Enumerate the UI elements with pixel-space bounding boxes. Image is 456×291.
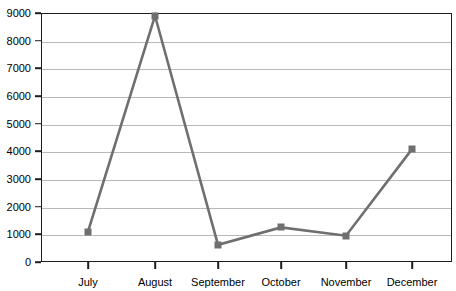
series-line	[0, 0, 456, 291]
data-point-marker	[152, 12, 159, 19]
data-point-marker	[215, 241, 222, 248]
data-point-marker	[409, 146, 416, 153]
data-point-marker	[343, 232, 350, 239]
line-chart: 0100020003000400050006000700080009000 Ju…	[0, 0, 456, 291]
data-point-marker	[85, 228, 92, 235]
data-point-marker	[278, 224, 285, 231]
